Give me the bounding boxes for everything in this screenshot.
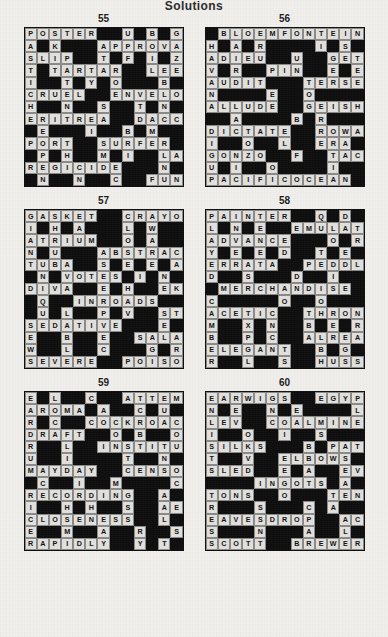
crossword-grid[interactable]: EARWIGSEGYPNENELLEVCOALMINEIOISSILKSBPAT… [205, 391, 365, 551]
crossword-cell-block [303, 162, 315, 174]
crossword-cell-letter: S [278, 356, 290, 368]
crossword-cell-letter: O [61, 489, 73, 501]
crossword-cell-letter: A [254, 125, 266, 137]
crossword-cell-block [266, 113, 278, 125]
crossword-cell-block [73, 332, 85, 344]
crossword-cell-letter: V [158, 40, 170, 52]
crossword-cell-block [327, 113, 339, 125]
crossword-cell-letter: A [97, 526, 109, 538]
crossword-cell-block [61, 222, 73, 234]
crossword-cell-block [170, 453, 182, 465]
crossword-cell-letter: O [73, 271, 85, 283]
crossword-cell-block [218, 162, 230, 174]
crossword-cell-block [158, 477, 170, 489]
crossword-cell-block [146, 526, 158, 538]
crossword-cell-letter: Y [206, 247, 218, 259]
crossword-cell-letter: V [61, 271, 73, 283]
crossword-cell-block [303, 150, 315, 162]
crossword-cell-letter: O [291, 514, 303, 526]
crossword-cell-block [37, 344, 49, 356]
crossword-cell-letter: N [230, 150, 242, 162]
crossword-cell-block [339, 64, 351, 76]
crossword-cell-letter: N [254, 234, 266, 246]
crossword-cell-block [266, 501, 278, 513]
crossword-cell-block [134, 125, 146, 137]
crossword-cell-letter: D [339, 210, 351, 222]
crossword-cell-letter: U [73, 234, 85, 246]
crossword-cell-block [230, 319, 242, 331]
crossword-cell-block [170, 538, 182, 550]
crossword-cell-letter: T [266, 125, 278, 137]
crossword-cell-letter: S [110, 514, 122, 526]
crossword-cell-letter: R [158, 137, 170, 149]
crossword-cell-letter: L [315, 332, 327, 344]
crossword-cell-letter: I [254, 392, 266, 404]
crossword-cell-letter: A [339, 137, 351, 149]
crossword-cell-letter: N [158, 271, 170, 283]
crossword-cell-letter: E [230, 283, 242, 295]
crossword-cell-letter: I [242, 77, 254, 89]
crossword-cell-letter: M [206, 319, 218, 331]
crossword-cell-letter: S [25, 319, 37, 331]
crossword-cell-letter: L [61, 307, 73, 319]
crossword-cell-letter: I [61, 538, 73, 550]
crossword-cell-letter: R [49, 137, 61, 149]
crossword-cell-letter: B [315, 344, 327, 356]
crossword-cell-block [254, 64, 266, 76]
crossword-cell-letter: A [339, 514, 351, 526]
crossword-cell-block [158, 429, 170, 441]
crossword-cell-block [327, 429, 339, 441]
crossword-cell-letter: C [122, 465, 134, 477]
crossword-cell-letter: E [351, 416, 363, 428]
crossword-cell-block [278, 222, 290, 234]
crossword-cell-block [134, 501, 146, 513]
crossword-cell-letter: E [315, 101, 327, 113]
crossword-cell-block [254, 271, 266, 283]
crossword-cell-block [278, 52, 290, 64]
crossword-cell-block [303, 137, 315, 149]
crossword-cell-letter: S [158, 465, 170, 477]
crossword-cell-letter: N [291, 64, 303, 76]
crossword-cell-letter: E [158, 392, 170, 404]
crossword-cell-block [97, 477, 109, 489]
crossword-cell-block [61, 125, 73, 137]
crossword-cell-letter: E [97, 283, 109, 295]
crossword-cell-letter: G [327, 52, 339, 64]
crossword-cell-letter: O [242, 137, 254, 149]
crossword-cell-block [37, 416, 49, 428]
crossword-cell-letter: W [327, 453, 339, 465]
crossword-grid[interactable]: ELCATTEMAROMAACURCCOCKROACDRAFTOBORLINST… [24, 391, 184, 551]
crossword-cell-letter: I [146, 52, 158, 64]
crossword-cell-letter: U [37, 307, 49, 319]
crossword-cell-letter: B [291, 113, 303, 125]
crossword-cell-letter: V [49, 356, 61, 368]
crossword-cell-letter: S [206, 526, 218, 538]
crossword-cell-block [315, 89, 327, 101]
crossword-cell-letter: L [206, 222, 218, 234]
crossword-cell-letter: S [122, 501, 134, 513]
crossword-grid[interactable]: BLOEMFONTEINHARISADIEUUGETVRPINEEAUDITTE… [205, 27, 365, 187]
crossword-cell-letter: U [254, 52, 266, 64]
crossword-grid[interactable]: PAINTERQDLNEEMULATADVANCEORYEEDTEERRATAP… [205, 209, 365, 369]
crossword-cell-letter: T [242, 125, 254, 137]
crossword-cell-letter: A [242, 259, 254, 271]
crossword-grid[interactable]: POSTERUBGAKAPPROVASLIPTFIZTTARTARLEEITYO… [24, 27, 184, 187]
crossword-cell-letter: R [25, 162, 37, 174]
crossword-cell-block [206, 113, 218, 125]
crossword-cell-block [97, 392, 109, 404]
crossword-cell-letter: O [170, 429, 182, 441]
crossword-cell-block [254, 453, 266, 465]
crossword-cell-letter: D [134, 113, 146, 125]
crossword-cell-block [110, 453, 122, 465]
crossword-cell-block [122, 429, 134, 441]
crossword-cell-letter: U [242, 101, 254, 113]
crossword-cell-letter: E [146, 89, 158, 101]
crossword-cell-letter: A [266, 259, 278, 271]
crossword-cell-letter: R [73, 356, 85, 368]
crossword-cell-letter: T [315, 28, 327, 40]
crossword-cell-letter: R [327, 137, 339, 149]
crossword-cell-letter: A [49, 429, 61, 441]
crossword-cell-block [218, 429, 230, 441]
crossword-grid[interactable]: GASKETCRAYOIHALWATRIUMOANUABSTRACTUBASEE… [24, 209, 184, 369]
crossword-cell-letter: S [206, 441, 218, 453]
